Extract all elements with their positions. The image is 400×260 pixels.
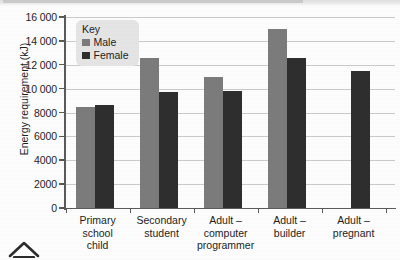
bar-female (223, 91, 242, 208)
bar-male (268, 29, 287, 208)
x-category-label: Primary school child (66, 214, 130, 252)
y-tick (59, 40, 65, 42)
x-tick (194, 208, 195, 213)
y-tick-label: 8000 (3, 107, 57, 119)
x-category-label-line: computer (192, 227, 260, 240)
y-tick-label: 0 (3, 202, 57, 214)
bar-male (76, 107, 95, 208)
legend-swatch-male (82, 39, 90, 47)
x-category-label-line: school (66, 227, 130, 240)
y-tick-label: 14 000 (3, 35, 57, 47)
y-tick-label: 12 000 (3, 59, 57, 71)
y-tick (59, 159, 65, 161)
y-tick-label: 4000 (3, 154, 57, 166)
chevron-up-icon (8, 240, 42, 258)
y-tick-label: 16 000 (3, 11, 57, 23)
x-category-label: Secondary student (130, 214, 194, 239)
bar-group (332, 17, 384, 208)
legend-item-male: Male (82, 36, 134, 49)
legend: Key Male Female (76, 20, 139, 66)
bar-group (140, 17, 192, 208)
x-tick (258, 208, 259, 213)
x-category-label-line: Adult – (322, 214, 386, 227)
y-tick (59, 136, 65, 138)
x-category-label-line: Adult – (258, 214, 322, 227)
y-tick (59, 88, 65, 90)
x-category-label-line: Primary (66, 214, 130, 227)
x-tick (386, 208, 387, 213)
bar-female (159, 92, 178, 208)
x-category-label-line: Secondary (130, 214, 194, 227)
x-category-label-line: builder (258, 227, 322, 240)
bar-group (204, 17, 256, 208)
bar-female (351, 71, 370, 208)
y-tick (59, 64, 65, 66)
y-tick-label: 10 000 (3, 83, 57, 95)
legend-label-female: Female (94, 49, 129, 62)
x-category-label: Adult – builder (258, 214, 322, 239)
legend-label-male: Male (94, 36, 117, 49)
x-category-label-line: pregnant (322, 227, 386, 240)
x-tick (322, 208, 323, 213)
x-category-label: Adult – computer programmer (192, 214, 260, 252)
y-tick (59, 112, 65, 114)
x-category-label-line: Adult – (192, 214, 260, 227)
x-category-label-line: programmer (192, 239, 260, 252)
bar-male (204, 77, 223, 208)
y-tick-label: 2000 (3, 178, 57, 190)
y-tick (59, 183, 65, 185)
legend-item-female: Female (82, 49, 134, 62)
bar-male (140, 58, 159, 208)
chart-page: 16 000 14 000 12 000 10 000 8000 6000 40… (0, 0, 400, 260)
x-tick (130, 208, 131, 213)
x-category-label-line: student (130, 227, 194, 240)
y-tick (59, 16, 65, 18)
x-category-label: Adult – pregnant (322, 214, 386, 239)
x-category-label-line: child (66, 239, 130, 252)
y-axis-title: Energy requirement (kJ) (18, 29, 30, 169)
bar-group (268, 17, 320, 208)
bar-female (95, 105, 114, 208)
y-tick-label: 6000 (3, 130, 57, 142)
y-tick (59, 207, 65, 209)
legend-swatch-female (82, 52, 90, 60)
x-tick (66, 208, 67, 213)
bar-female (287, 58, 306, 208)
legend-title: Key (82, 23, 134, 36)
